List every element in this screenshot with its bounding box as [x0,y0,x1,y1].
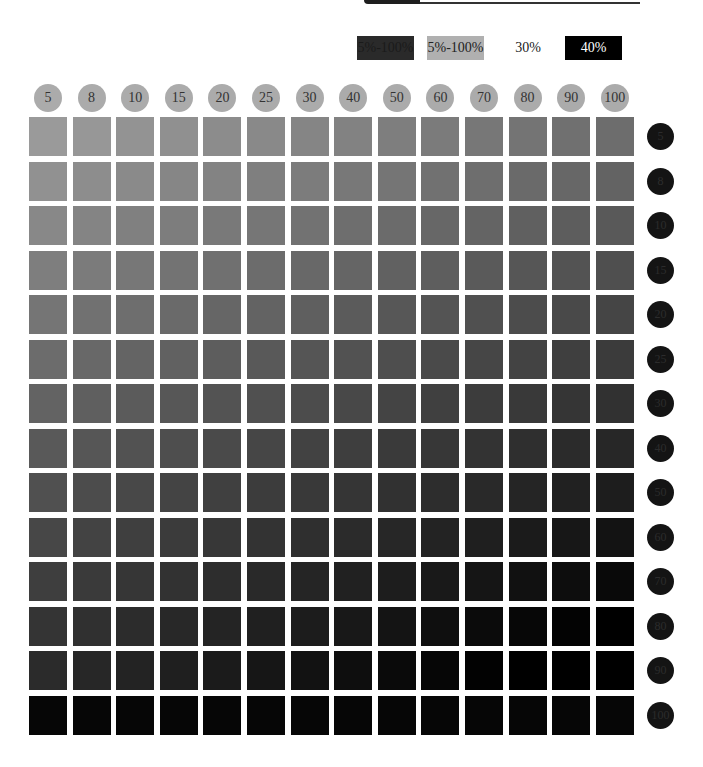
row-header-25: 25 [647,346,674,373]
tint-cell-r30-c15 [160,384,198,423]
tint-cell-r8-c90 [552,162,590,201]
tint-cell-r15-c90 [552,251,590,290]
row-header-100: 100 [647,702,674,729]
tint-cell-r20-c50 [378,295,416,334]
tint-cell-r30-c10 [116,384,154,423]
tint-cell-r70-c8 [73,562,111,601]
tint-cell-r30-c5 [29,384,67,423]
tint-cell-r40-c50 [378,429,416,468]
tint-cell-r70-c25 [247,562,285,601]
column-header-30: 30 [296,84,324,112]
tint-cell-r100-c80 [509,696,547,735]
tint-cell-r80-c20 [203,607,241,646]
tint-cell-r70-c100 [596,562,634,601]
row-header-70: 70 [647,568,674,595]
tint-cell-r30-c50 [378,384,416,423]
row-header-90: 90 [647,657,674,684]
tint-cell-r15-c8 [73,251,111,290]
tint-cell-r8-c15 [160,162,198,201]
tint-cell-r60-c30 [291,518,329,557]
tint-cell-r100-c50 [378,696,416,735]
tint-cell-r5-c50 [378,117,416,156]
tint-cell-r50-c90 [552,473,590,512]
tint-cell-r40-c60 [421,429,459,468]
tint-cell-r100-c20 [203,696,241,735]
tint-cell-r8-c30 [291,162,329,201]
tint-cell-r25-c5 [29,340,67,379]
tint-cell-r10-c90 [552,206,590,245]
tint-cell-r100-c8 [73,696,111,735]
tint-cell-r100-c5 [29,696,67,735]
tint-cell-r40-c25 [247,429,285,468]
tint-cell-r50-c50 [378,473,416,512]
tint-cell-r30-c40 [334,384,372,423]
tint-cell-r60-c8 [73,518,111,557]
tint-cell-r15-c50 [378,251,416,290]
tint-cell-r5-c10 [116,117,154,156]
tint-cell-r40-c90 [552,429,590,468]
tint-cell-r60-c70 [465,518,503,557]
column-header-80: 80 [514,84,542,112]
tint-cell-r80-c70 [465,607,503,646]
column-header-60: 60 [426,84,454,112]
tint-cell-r5-c80 [509,117,547,156]
tint-cell-r20-c30 [291,295,329,334]
tint-cell-r30-c20 [203,384,241,423]
tint-cell-r25-c15 [160,340,198,379]
tint-cell-r30-c90 [552,384,590,423]
tint-cell-r5-c5 [29,117,67,156]
tint-cell-r30-c30 [291,384,329,423]
tint-cell-r90-c8 [73,651,111,690]
tint-cell-r10-c80 [509,206,547,245]
tint-cell-r100-c10 [116,696,154,735]
tint-cell-r70-c20 [203,562,241,601]
legend-dark-range: 5%-100% [357,36,414,60]
row-header-60: 60 [647,524,674,551]
row-header-15: 15 [647,257,674,284]
tint-cell-r15-c20 [203,251,241,290]
tint-cell-r100-c25 [247,696,285,735]
tint-cell-r30-c25 [247,384,285,423]
tint-cell-r20-c15 [160,295,198,334]
tint-cell-r30-c70 [465,384,503,423]
tint-cell-r60-c5 [29,518,67,557]
tint-cell-r50-c20 [203,473,241,512]
tint-cell-r90-c5 [29,651,67,690]
tint-cell-r40-c30 [291,429,329,468]
tint-cell-r80-c15 [160,607,198,646]
column-header-8: 8 [78,84,106,112]
tint-cell-r8-c70 [465,162,503,201]
tint-cell-r100-c60 [421,696,459,735]
tint-cell-r40-c70 [465,429,503,468]
tint-cell-r70-c30 [291,562,329,601]
top-tab [364,0,420,4]
tint-cell-r90-c40 [334,651,372,690]
tint-cell-r25-c50 [378,340,416,379]
legend-light-range: 5%-100% [427,36,484,60]
tint-cell-r25-c90 [552,340,590,379]
column-header-70: 70 [470,84,498,112]
tint-cell-r5-c90 [552,117,590,156]
row-header-30: 30 [647,390,674,417]
tint-cell-r15-c25 [247,251,285,290]
tint-cell-r90-c60 [421,651,459,690]
tint-cell-r8-c60 [421,162,459,201]
tint-cell-r90-c10 [116,651,154,690]
tint-cell-r80-c100 [596,607,634,646]
tint-cell-r60-c25 [247,518,285,557]
tint-cell-r10-c20 [203,206,241,245]
tint-cell-r15-c100 [596,251,634,290]
tint-cell-r25-c100 [596,340,634,379]
tint-cell-r5-c60 [421,117,459,156]
tint-cell-r10-c8 [73,206,111,245]
tint-cell-r15-c15 [160,251,198,290]
tint-cell-r5-c70 [465,117,503,156]
tint-cell-r90-c15 [160,651,198,690]
tint-cell-r50-c10 [116,473,154,512]
tint-cell-r60-c90 [552,518,590,557]
legend-30: 30% [500,36,556,60]
tint-cell-r25-c20 [203,340,241,379]
tint-cell-r30-c60 [421,384,459,423]
tint-cell-r20-c20 [203,295,241,334]
tint-cell-r70-c10 [116,562,154,601]
